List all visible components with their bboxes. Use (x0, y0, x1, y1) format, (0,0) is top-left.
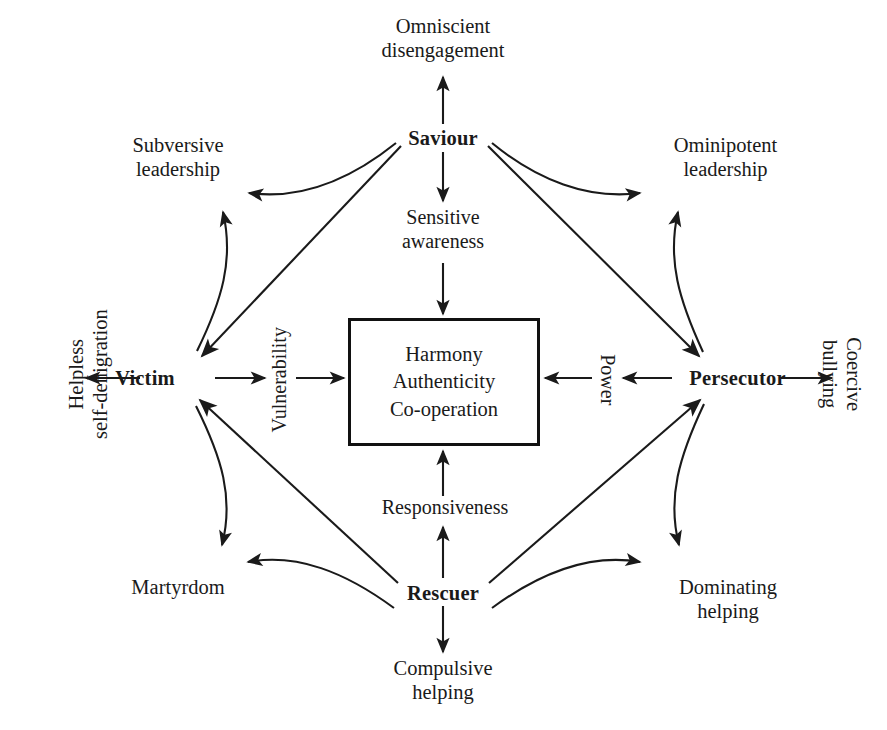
edge-persecutor-to-ominipotent (674, 212, 703, 352)
edge-saviour-to-ominipotent (492, 143, 640, 194)
outcome-compulsive-helping: Compulsive helping (353, 656, 533, 704)
edge-victim-to-subversive (197, 212, 227, 351)
edge-rescuer-to-dominating (492, 560, 640, 608)
core-values-text: Harmony Authenticity Co-operation (351, 341, 537, 423)
outcome-dominating-helping: Dominating helping (648, 575, 808, 623)
core-values-box: Harmony Authenticity Co-operation (348, 318, 540, 446)
role-saviour[interactable]: Saviour (373, 126, 513, 150)
outcome-martyrdom: Martyrdom (108, 575, 248, 599)
outcome-subversive-leadership: Subversive leadership (98, 133, 258, 181)
quality-sensitive-awareness: Sensitive awareness (363, 206, 523, 253)
quality-power: Power (595, 310, 619, 450)
role-rescuer[interactable]: Rescuer (373, 581, 513, 605)
role-persecutor[interactable]: Persecutor (660, 366, 815, 390)
quality-vulnerability: Vulnerability (268, 310, 292, 450)
edge-victim-to-martyrdom (196, 406, 227, 545)
quality-responsiveness: Responsiveness (365, 496, 525, 520)
outcome-ominipotent-leadership: Ominipotent leadership (638, 133, 813, 181)
outcome-omniscient-disengagement: Omniscient disengagement (343, 14, 543, 62)
edge-saviour-to-subversive (249, 143, 396, 194)
outcome-helpless-self-denigration: Helpless self-denigration (64, 254, 112, 494)
edge-persecutor-to-dominating (674, 404, 704, 545)
diagram-canvas: Harmony Authenticity Co-operation Saviou… (0, 0, 887, 730)
outcome-coercive-bullying: Coercive bullying (818, 254, 866, 494)
